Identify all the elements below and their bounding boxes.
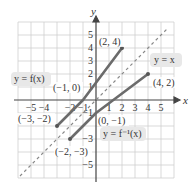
point-label-0-neg1: (0, −1) <box>98 115 125 127</box>
equation-label-identity: y = x <box>154 54 175 65</box>
y-tick-label: 2 <box>88 68 93 79</box>
x-axis-arrow-icon <box>174 97 180 103</box>
x-tick-label: −5 <box>26 102 37 113</box>
point-4-2 <box>146 72 150 76</box>
x-tick-label: 3 <box>133 102 138 113</box>
point-neg3-neg2 <box>55 124 59 128</box>
equation-label-f-inverse: y = f⁻¹(x) <box>103 128 142 140</box>
x-axis-label: x <box>182 94 188 106</box>
x-tick-label: 4 <box>146 102 151 113</box>
point-label-2-4: (2, 4) <box>99 36 121 48</box>
x-tick-label: 5 <box>159 102 164 113</box>
graph-canvas: x y −5 −4 −2 −1 1 2 3 4 5 5 4 3 2 1 −1 −… <box>0 0 192 195</box>
point-label-neg1-0: (−1, 0) <box>53 82 80 94</box>
y-tick-label: −5 <box>82 159 93 170</box>
y-tick-label: −3 <box>82 133 93 144</box>
x-tick-label: 2 <box>120 102 125 113</box>
y-tick-label: 5 <box>88 29 93 40</box>
y-tick-label: 4 <box>88 42 93 53</box>
point-label-4-2: (4, 2) <box>153 77 175 89</box>
x-tick-label: −4 <box>39 102 50 113</box>
y-axis-label: y <box>90 5 96 17</box>
y-tick-label: 3 <box>88 55 93 66</box>
point-label-neg2-neg3: (−2, −3) <box>55 146 88 158</box>
point-neg2-neg3 <box>68 137 72 141</box>
equation-label-f: y = f(x) <box>14 73 45 85</box>
x-tick-labels: −5 −4 −2 −1 1 2 3 4 5 <box>26 102 164 113</box>
point-label-neg3-neg2: (−3, −2) <box>18 113 51 125</box>
